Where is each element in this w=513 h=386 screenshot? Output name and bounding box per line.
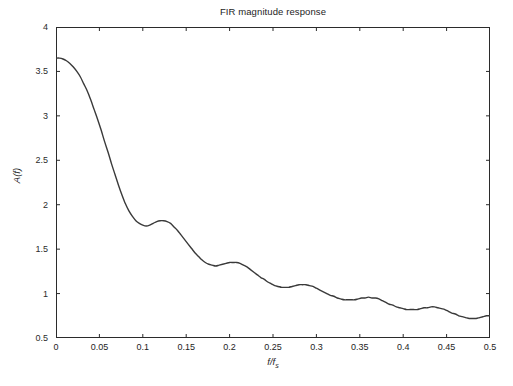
axes-and-curve — [56, 27, 490, 338]
x-tick-label: 0 — [53, 341, 58, 353]
x-tick-label: 0.2 — [223, 341, 236, 353]
axes-box — [57, 28, 490, 338]
y-tick-label: 3 — [43, 110, 48, 122]
x-axis-label-text: f/f — [267, 356, 275, 367]
x-axis-label: f/fs — [56, 356, 490, 369]
y-tick-label: 1.5 — [35, 243, 48, 255]
x-tick-label: 0.25 — [264, 341, 282, 353]
chart-title: FIR magnitude response — [56, 6, 490, 17]
y-tick-label: 1 — [43, 288, 48, 300]
y-axis-label: A(f) — [11, 156, 22, 196]
y-tick-label: 3.5 — [35, 65, 48, 77]
x-tick-label: 0.5 — [484, 341, 497, 353]
plot-area — [56, 27, 490, 338]
x-tick-label: 0.35 — [351, 341, 369, 353]
x-tick-label: 0.3 — [310, 341, 323, 353]
y-axis-tick-labels: 0.511.522.533.54 — [24, 27, 52, 338]
x-axis-tick-labels: 00.050.10.150.20.250.30.350.40.450.5 — [56, 341, 490, 355]
figure-canvas: FIR magnitude response 0.511.522.533.54 … — [0, 0, 513, 386]
y-tick-label: 2 — [43, 199, 48, 211]
x-tick-label: 0.45 — [438, 341, 456, 353]
x-tick-label: 0.1 — [137, 341, 150, 353]
y-tick-label: 0.5 — [35, 332, 48, 344]
x-tick-label: 0.15 — [177, 341, 195, 353]
x-tick-label: 0.4 — [397, 341, 410, 353]
y-tick-label: 4 — [43, 21, 48, 33]
x-axis-label-subscript: s — [275, 362, 279, 369]
x-tick-label: 0.05 — [91, 341, 109, 353]
y-tick-label: 2.5 — [35, 154, 48, 166]
